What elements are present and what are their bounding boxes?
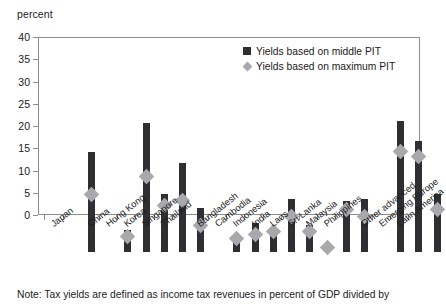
y-tick-label: 35 <box>8 54 30 64</box>
legend-label-middle-pit: Yields based on middle PIT <box>256 46 381 57</box>
y-tick-label: 30 <box>8 77 30 87</box>
legend-diamond-swatch-icon <box>242 61 252 71</box>
y-tick-mark <box>33 215 38 216</box>
bar-hong-kong <box>143 123 150 252</box>
legend-diamond-swatch-wrap <box>243 63 256 70</box>
marker-other-advanced <box>393 144 409 160</box>
chart-legend: Yields based on middle PIT Yields based … <box>243 44 419 74</box>
y-axis-unit-label: percent <box>17 8 53 20</box>
y-tick-label: 20 <box>8 121 30 131</box>
legend-item-middle-pit: Yields based on middle PIT <box>243 44 419 58</box>
y-tick-label: 25 <box>8 99 30 109</box>
marker-sri-lanka <box>320 240 336 256</box>
legend-square-swatch-icon <box>243 47 251 55</box>
y-tick-label: 5 <box>8 188 30 198</box>
y-tick-label: 40 <box>8 32 30 42</box>
chart-note: Note: Tax yields are defined as income t… <box>17 288 432 301</box>
legend-item-maximum-pit: Yields based on maximum PIT <box>243 59 419 73</box>
y-tick-label: 0 <box>8 210 30 220</box>
legend-label-maximum-pit: Yields based on maximum PIT <box>256 61 395 72</box>
x-tick-mark <box>44 215 45 220</box>
y-tick-label: 15 <box>8 143 30 153</box>
marker-hong-kong <box>138 169 154 185</box>
marker-bangladesh <box>229 231 245 247</box>
y-tick-label: 10 <box>8 166 30 176</box>
marker-china <box>120 229 136 245</box>
marker-japan <box>84 186 100 202</box>
marker-emerging-europe <box>411 149 427 165</box>
